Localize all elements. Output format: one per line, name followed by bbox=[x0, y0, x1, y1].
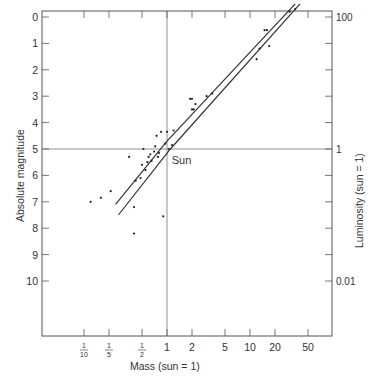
x-tick-label-numerator: 1 bbox=[82, 342, 86, 349]
y-tick-label: 1 bbox=[32, 37, 38, 49]
y2-axis-ticks: 10010.01 bbox=[325, 0, 356, 287]
data-point bbox=[266, 29, 268, 31]
x-tick-label-numerator: 1 bbox=[140, 342, 144, 349]
data-points bbox=[90, 0, 302, 235]
data-point bbox=[154, 145, 156, 147]
band-line-lower bbox=[118, 4, 300, 215]
data-point bbox=[153, 151, 155, 153]
data-point bbox=[206, 95, 208, 97]
data-point bbox=[157, 156, 159, 158]
data-point bbox=[164, 143, 166, 145]
data-point bbox=[158, 152, 160, 154]
data-point bbox=[256, 58, 258, 60]
data-point bbox=[194, 103, 196, 105]
data-point bbox=[133, 206, 135, 208]
data-point bbox=[144, 169, 146, 171]
y2-axis-label: Luminosity (sun = 1) bbox=[353, 153, 365, 248]
y2-tick-label: 0.01 bbox=[336, 276, 356, 287]
x-tick-label: 20 bbox=[269, 341, 281, 353]
x-tick-label-numerator: 1 bbox=[107, 342, 111, 349]
y-tick-label: 7 bbox=[32, 196, 38, 208]
data-point bbox=[168, 148, 170, 150]
y-axis-ticks: −1012345678910 bbox=[26, 0, 49, 287]
data-point bbox=[160, 131, 162, 133]
data-point bbox=[193, 108, 195, 110]
data-point bbox=[90, 201, 92, 203]
y-tick-label: 8 bbox=[32, 222, 38, 234]
x-tick-label: 2 bbox=[189, 341, 195, 353]
y-tick-label: 6 bbox=[32, 169, 38, 181]
y-tick-label: 5 bbox=[32, 143, 38, 155]
data-point bbox=[141, 164, 143, 166]
mass-luminosity-chart: 1101512125102050 −1012345678910 10010.01… bbox=[0, 0, 376, 379]
y-tick-label: 2 bbox=[32, 64, 38, 76]
data-point bbox=[258, 48, 260, 50]
y2-tick-label: 100 bbox=[336, 12, 353, 23]
data-point bbox=[162, 215, 164, 217]
y-tick-label: 3 bbox=[32, 90, 38, 102]
data-point bbox=[135, 180, 137, 182]
x-tick-label: 5 bbox=[222, 341, 228, 353]
data-point bbox=[166, 131, 168, 133]
x-tick-label-denominator: 10 bbox=[80, 351, 88, 358]
y-tick-label: 9 bbox=[32, 249, 38, 261]
plot-border bbox=[42, 11, 332, 336]
data-point bbox=[268, 45, 270, 47]
data-point bbox=[294, 8, 296, 10]
data-point bbox=[264, 29, 266, 31]
y-tick-label: 0 bbox=[32, 11, 38, 23]
band-line-upper bbox=[116, 4, 296, 205]
x-tick-label: 1 bbox=[164, 341, 170, 353]
x-tick-label: 50 bbox=[302, 341, 314, 353]
data-point bbox=[128, 156, 130, 158]
data-point bbox=[149, 153, 151, 155]
data-point bbox=[189, 98, 191, 100]
data-point bbox=[156, 135, 158, 137]
data-point bbox=[191, 98, 193, 100]
data-point bbox=[139, 177, 141, 179]
data-point bbox=[100, 197, 102, 199]
data-point bbox=[289, 11, 291, 13]
data-point bbox=[211, 93, 213, 95]
x-tick-label-denominator: 5 bbox=[107, 351, 111, 358]
x-tick-label-denominator: 2 bbox=[140, 351, 144, 358]
x-tick-label: 10 bbox=[244, 341, 256, 353]
x-axis-ticks: 1101512125102050 bbox=[80, 11, 314, 358]
y-axis-label: Absolute magnitude bbox=[14, 129, 26, 222]
data-point bbox=[146, 161, 148, 163]
plot-frame bbox=[42, 11, 332, 336]
data-point bbox=[133, 232, 135, 234]
data-point bbox=[142, 148, 144, 150]
data-point bbox=[173, 129, 175, 131]
sun-annotation: Sun bbox=[172, 154, 192, 166]
data-point bbox=[110, 190, 112, 192]
x-axis-label: Mass (sun = 1) bbox=[130, 360, 200, 372]
mass-luminosity-band bbox=[116, 4, 300, 215]
y2-tick-label: 1 bbox=[336, 144, 342, 155]
data-point bbox=[171, 144, 173, 146]
data-point bbox=[148, 156, 150, 158]
y-tick-label: 10 bbox=[26, 275, 38, 287]
data-point bbox=[150, 160, 152, 162]
y-tick-label: 4 bbox=[32, 117, 38, 129]
reference-lines bbox=[42, 11, 332, 336]
